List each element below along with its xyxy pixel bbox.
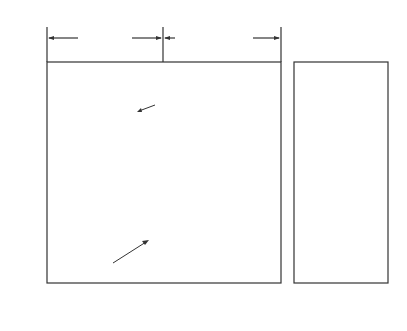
left-chart-axes bbox=[47, 62, 281, 283]
ocean-sediment-chart bbox=[0, 0, 407, 331]
radiolarian-leader-arrow bbox=[113, 242, 146, 263]
group-brackets bbox=[47, 27, 281, 62]
left-chart-annotations bbox=[113, 105, 155, 263]
right-chart-axes bbox=[294, 62, 388, 283]
